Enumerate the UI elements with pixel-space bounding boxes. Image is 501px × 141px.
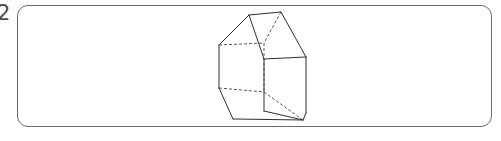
answer-box[interactable] [17,5,492,127]
question-number: 2 [0,0,10,26]
